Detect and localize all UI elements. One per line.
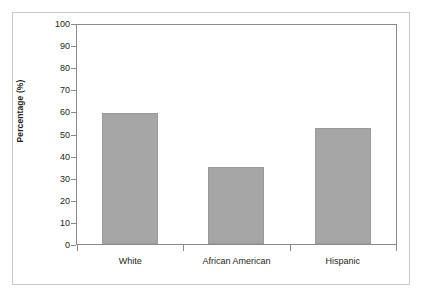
y-tick-label: 90 [36,42,70,51]
y-tick-mark [71,201,76,202]
y-tick-label: 50 [36,130,70,139]
x-tick-mark [77,245,78,251]
x-tick-mark [290,245,291,251]
bar-slot [77,25,183,244]
x-tick-mark [183,245,184,251]
y-axis-tick-marks [71,24,76,245]
x-axis-tick-labels: WhiteAfrican AmericanHispanic [76,256,397,272]
y-tick-mark [71,179,76,180]
y-tick-label: 40 [36,152,70,161]
y-tick-label: 100 [36,20,70,29]
x-axis-tick-marks [76,245,397,251]
x-axis-label-white: White [119,256,142,266]
bars-container [77,25,396,244]
y-tick-mark [71,68,76,69]
y-tick-mark [71,90,76,91]
bar-african-american[interactable] [208,167,264,244]
bar-slot [290,25,396,244]
y-tick-mark [71,135,76,136]
bar-white[interactable] [102,113,158,244]
y-tick-label: 10 [36,218,70,227]
y-axis-title: Percentage (%) [15,51,25,171]
bar-slot [183,25,289,244]
y-tick-label: 70 [36,86,70,95]
y-tick-mark [71,46,76,47]
y-tick-label: 30 [36,174,70,183]
x-axis-label-hispanic: Hispanic [326,256,361,266]
chart-figure: Percentage (%) 0102030405060708090100 Wh… [0,0,422,297]
y-tick-label: 20 [36,196,70,205]
y-axis-tick-labels: 0102030405060708090100 [32,24,70,245]
y-tick-label: 0 [36,241,70,250]
y-tick-mark [71,157,76,158]
bar-hispanic[interactable] [315,128,371,244]
x-tick-mark [396,245,397,251]
y-tick-mark [71,24,76,25]
y-tick-mark [71,112,76,113]
y-tick-label: 80 [36,64,70,73]
x-axis-label-african-american: African American [202,256,270,266]
y-tick-mark [71,223,76,224]
y-tick-label: 60 [36,108,70,117]
